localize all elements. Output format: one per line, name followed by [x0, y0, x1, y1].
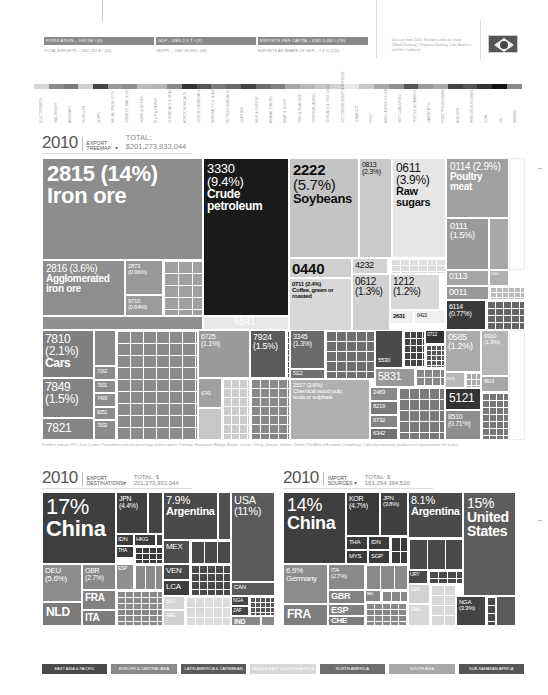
tile-8219[interactable]: 8219 [370, 401, 398, 415]
tile-0611[interactable]: 0611 (3.9%) Raw sugars [392, 158, 446, 258]
tile-3330[interactable]: 3330 (9.4%) Crude petroleum [203, 158, 289, 316]
tile-gbr[interactable]: GBR (2.7%) [82, 564, 116, 590]
tile-5112[interactable]: 5112 [290, 369, 325, 379]
tile-0712[interactable]: 0712 [425, 330, 445, 344]
tile-0114[interactable]: 0114 (2.9%) Poultry meat [446, 158, 509, 218]
tile[interactable] [218, 492, 231, 540]
tile[interactable] [198, 408, 222, 440]
tile-deu[interactable]: DEU (5.6%) [42, 564, 82, 602]
tile-nga[interactable]: NGA [231, 596, 249, 606]
tile-6342[interactable]: 6342 [370, 428, 398, 440]
tile[interactable] [509, 330, 525, 440]
tile-6741[interactable]: 6741 [198, 378, 222, 408]
tile-nld[interactable]: NLD [42, 602, 82, 626]
legend-item[interactable]: SUB-SAHARAN AFRICA [459, 664, 524, 674]
tile-9710[interactable]: 9710 (0.64%) [125, 295, 163, 316]
tile-5831[interactable]: 5831 [375, 368, 415, 387]
tile-8251[interactable]: 8251 [94, 407, 116, 420]
legend-item[interactable]: SOUTH ASIA [389, 664, 454, 674]
tile-7924[interactable]: 7924 (1.5%) [250, 330, 286, 378]
tile-jpn[interactable]: JPN (3.8%) [380, 492, 408, 536]
tile-7810[interactable]: 7810 (2.1%) Cars [42, 330, 94, 378]
tile-0116[interactable]: 0116 [489, 270, 509, 286]
tile-6613[interactable]: 6613 [481, 376, 509, 392]
dropdown-arrow-icon[interactable]: ▾ [354, 479, 357, 486]
tile-5121[interactable]: 5121 [445, 388, 481, 410]
tile-esp[interactable]: ESP [328, 604, 365, 616]
tile-dza[interactable]: DZA [408, 584, 430, 604]
legend-item[interactable]: EAST ASIA & PACIFIC [42, 664, 107, 674]
tile-0711[interactable]: 0711 (2.4%) Coffee, green or roasted [289, 278, 352, 333]
legend-item[interactable]: NORTH AMERICA [320, 664, 385, 674]
legend-item[interactable]: EUROPE & CENTRAL ASIA [111, 664, 176, 674]
legend-item[interactable]: MIDDLE EAST & NORTH AFRICA [250, 664, 315, 674]
tile-che[interactable]: CHE [328, 616, 365, 626]
tile[interactable] [94, 330, 116, 366]
tile-2631[interactable]: 2631 [390, 310, 414, 324]
tile-argentina[interactable]: 8.1% Argentina [408, 492, 463, 538]
tile-6725[interactable]: 6725 (1.1%) [198, 330, 250, 378]
tile-sau[interactable]: SAU [408, 604, 430, 626]
tile-6732[interactable]: 6732 [370, 415, 398, 428]
tile-gbr[interactable]: GBR [328, 590, 365, 604]
tile-2815[interactable]: 2815 (14%) Iron ore [42, 158, 203, 260]
legend-item[interactable]: LATIN AMERICA & CARIBBEAN [181, 664, 246, 674]
tile-0422[interactable]: 0422 [414, 310, 446, 324]
tile-1212[interactable]: 1212 (1.2%) [390, 274, 440, 310]
tile-sgp[interactable]: SGP [368, 550, 390, 564]
tile-esp[interactable]: ESP [116, 564, 134, 590]
tile-idn[interactable]: IDN [368, 536, 390, 550]
tile-bel[interactable]: BEL [365, 590, 381, 602]
tile-7832[interactable]: 7832 [94, 420, 116, 440]
tile-idn[interactable]: IDN [116, 534, 134, 546]
tile[interactable] [148, 492, 163, 534]
tile[interactable] [42, 316, 203, 330]
tile-2517[interactable]: 2517 (2.6%) Chemical wood pulp, soda or … [290, 379, 370, 440]
tile[interactable] [496, 596, 516, 626]
tile-0612[interactable]: 0612 (1.3%) [352, 274, 390, 333]
tile-0576[interactable]: 0576 [445, 372, 465, 388]
tile-jpn[interactable]: JPN (4.4%) [116, 492, 148, 534]
tile-are[interactable]: ARE [163, 610, 185, 626]
tile-2222[interactable]: 2222 (5.7%) Soybeans [289, 158, 359, 258]
tile-china[interactable]: 14% China [283, 492, 346, 564]
tile-china[interactable]: 17% China [42, 492, 116, 564]
tile-usa[interactable]: USA (11%) [231, 492, 275, 582]
tile-ind[interactable]: IND [231, 616, 261, 626]
tile-sau[interactable]: SAU [163, 596, 185, 610]
tile-2816[interactable]: 2816 (3.6%) Agglomerated iron ore [42, 260, 125, 316]
tile-7849[interactable]: 7849 (1.5%) [42, 378, 94, 418]
tile-9310[interactable]: 9310 (1.3%) [481, 330, 509, 376]
tile-2873[interactable]: 2873 (0.96%) [125, 260, 163, 295]
tile-5530[interactable]: 5530 [375, 330, 403, 368]
tile-0011[interactable]: 0011 [446, 286, 489, 300]
tile-argentina[interactable]: 7.9% Argentina [163, 492, 218, 540]
tile-zaf[interactable]: ZAF [231, 606, 249, 616]
tile-nga[interactable]: NGA (3.3%) [456, 596, 486, 626]
tile-lca[interactable]: LCA [163, 580, 190, 596]
tile-6841[interactable]: 6841 [203, 316, 289, 330]
tile-tha[interactable]: THA [116, 546, 134, 558]
tile-can[interactable]: CAN [231, 582, 275, 596]
tile-7493[interactable]: 7493 [94, 393, 116, 407]
tile-4232[interactable]: 4232 [352, 258, 388, 274]
tile[interactable] [489, 218, 509, 270]
tile-6114[interactable]: 6114 (0.77%) [446, 300, 486, 330]
tile-2483[interactable]: 2483 [370, 387, 398, 401]
tile-ven[interactable]: VEN [163, 564, 190, 580]
tile-ita[interactable]: ITA [82, 610, 116, 626]
tile-fra[interactable]: FRA [82, 590, 116, 610]
tile[interactable] [261, 616, 275, 626]
dropdown-arrow-icon[interactable]: ▾ [115, 144, 118, 151]
tile-3345[interactable]: 3345 (1.3%) [290, 330, 325, 369]
dropdown-arrow-icon[interactable]: ▾ [123, 479, 126, 486]
tile-7831[interactable]: 7831 [94, 380, 116, 393]
tile-7821[interactable]: 7821 [42, 418, 94, 440]
tile-0113[interactable]: 0113 [446, 270, 489, 286]
tile-tha[interactable]: THA [346, 536, 368, 550]
tile-0440[interactable]: 0440 [289, 258, 352, 278]
tile-fra[interactable]: FRA [283, 604, 328, 626]
tile-usa[interactable]: 15% United States [463, 492, 516, 596]
tile-0585[interactable]: 0585 (1.2%) [445, 330, 481, 372]
tile[interactable] [156, 534, 163, 546]
